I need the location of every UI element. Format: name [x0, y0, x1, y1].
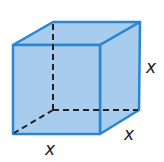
cube-diagram: x x x [0, 0, 164, 162]
cube-drawing [0, 0, 164, 162]
cube-front-face [13, 45, 100, 134]
depth-label: x [124, 126, 134, 143]
height-label: x [146, 59, 156, 76]
width-label: x [45, 141, 55, 158]
